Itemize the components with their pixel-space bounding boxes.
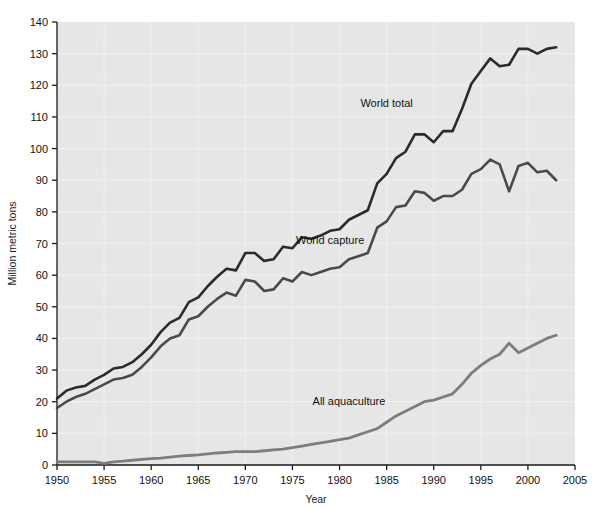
y-tick-label: 110: [30, 111, 48, 123]
series-label-world-total: World total: [360, 97, 412, 109]
series-label-all-aquaculture: All aquaculture: [313, 395, 386, 407]
x-tick-label: 2005: [563, 474, 587, 486]
x-tick-label: 1975: [280, 474, 304, 486]
y-tick-label: 70: [36, 238, 48, 250]
y-tick-label: 120: [30, 79, 48, 91]
y-tick-label: 30: [36, 364, 48, 376]
y-tick-label: 10: [36, 427, 48, 439]
x-tick-label: 1980: [327, 474, 351, 486]
y-tick-label: 130: [30, 48, 48, 60]
y-tick-label: 90: [36, 174, 48, 186]
x-tick-label: 1960: [139, 474, 163, 486]
y-tick-label: 60: [36, 269, 48, 281]
y-tick-label: 40: [36, 332, 48, 344]
series-label-world-capture: World capture: [296, 234, 364, 246]
x-tick-label: 1965: [186, 474, 210, 486]
x-tick-label: 1995: [469, 474, 493, 486]
x-tick-label: 1970: [233, 474, 257, 486]
x-tick-label: 1985: [374, 474, 398, 486]
y-tick-label: 0: [42, 459, 48, 471]
x-axis-title: Year: [305, 493, 327, 505]
y-tick-label: 80: [36, 206, 48, 218]
x-tick-label: 1990: [421, 474, 445, 486]
y-tick-label: 50: [36, 301, 48, 313]
y-tick-label: 20: [36, 396, 48, 408]
x-tick-label: 1955: [92, 474, 116, 486]
chart-figure: 0102030405060708090100110120130140195019…: [0, 0, 598, 508]
y-axis-title: Million metric tons: [6, 201, 18, 285]
y-tick-label: 100: [30, 143, 48, 155]
x-tick-label: 2000: [516, 474, 540, 486]
y-tick-label: 140: [30, 16, 48, 28]
fisheries-production-line-chart: 0102030405060708090100110120130140195019…: [0, 0, 598, 508]
x-tick-label: 1950: [45, 474, 69, 486]
